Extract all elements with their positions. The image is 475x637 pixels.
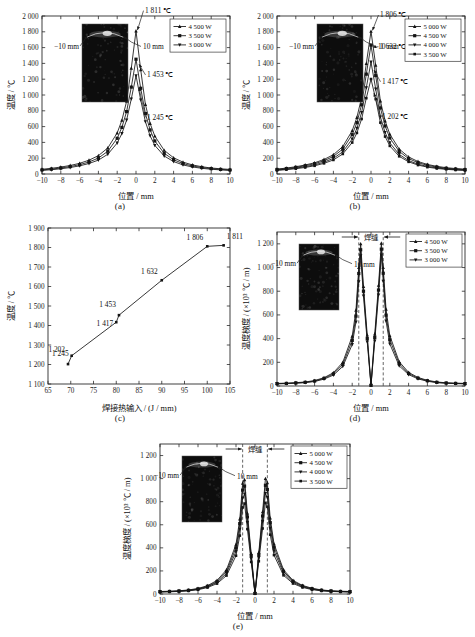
panel-caption: (a) [4, 201, 236, 211]
panel-d-chart: −10−8−6−4−2024681002004006008001 0001 20… [239, 218, 471, 428]
svg-text:1 632: 1 632 [141, 267, 158, 276]
svg-text:10 mm: 10 mm [237, 472, 258, 481]
svg-text:0: 0 [369, 177, 373, 185]
svg-text:1 200: 1 200 [257, 76, 274, 84]
svg-text:4 000 W: 4 000 W [310, 468, 334, 475]
panel-caption: (b) [239, 201, 471, 211]
panel-a-chart: −10−8−6−4−2024681002004006008001 0001 20… [4, 4, 236, 216]
svg-text:90: 90 [158, 387, 166, 395]
svg-text:1 245: 1 245 [52, 349, 69, 358]
svg-text:位置 / mm: 位置 / mm [237, 611, 273, 621]
svg-text:400: 400 [146, 544, 157, 552]
svg-text:1 200: 1 200 [140, 452, 157, 460]
panel-c-chart: 657075808590951001051 1001 2001 3001 400… [4, 218, 236, 428]
svg-text:1 400: 1 400 [22, 60, 39, 68]
svg-text:4 000 W: 4 000 W [424, 41, 448, 48]
svg-text:3 000 W: 3 000 W [189, 41, 213, 48]
svg-text:4: 4 [407, 389, 411, 397]
svg-text:−4: −4 [213, 597, 221, 605]
svg-text:8: 8 [444, 389, 448, 397]
svg-text:1 806: 1 806 [187, 233, 204, 242]
svg-text:0: 0 [270, 383, 274, 391]
svg-text:−2: −2 [232, 597, 240, 605]
svg-text:1 600: 1 600 [22, 44, 39, 52]
svg-text:−6: −6 [194, 597, 202, 605]
svg-text:200: 200 [146, 567, 157, 575]
svg-text:4: 4 [291, 597, 295, 605]
svg-text:−2: −2 [113, 177, 121, 185]
svg-text:1 300: 1 300 [28, 342, 45, 350]
svg-text:1 000: 1 000 [22, 92, 39, 100]
svg-text:800: 800 [146, 498, 157, 506]
svg-text:10: 10 [461, 389, 469, 397]
svg-text:65: 65 [44, 387, 52, 395]
svg-text:3 500 W: 3 500 W [425, 247, 449, 254]
svg-text:600: 600 [263, 123, 274, 131]
svg-text:2 000: 2 000 [257, 13, 274, 21]
svg-text:1 200: 1 200 [28, 361, 45, 369]
svg-text:80: 80 [113, 387, 121, 395]
svg-text:10 mm: 10 mm [354, 260, 375, 269]
svg-text:100: 100 [202, 387, 213, 395]
svg-text:800: 800 [263, 107, 274, 115]
svg-text:1 800: 1 800 [22, 28, 39, 36]
svg-text:温度梯度 / (×10³ ℃ / m): 温度梯度 / (×10³ ℃ / m) [122, 477, 132, 560]
svg-text:−8: −8 [175, 597, 183, 605]
svg-text:1 453: 1 453 [99, 300, 116, 309]
svg-text:−10 mm: −10 mm [154, 471, 179, 480]
svg-text:1 100: 1 100 [28, 381, 45, 389]
svg-text:600: 600 [263, 311, 274, 319]
svg-text:1 400: 1 400 [257, 60, 274, 68]
svg-text:位置 / mm: 位置 / mm [118, 191, 154, 201]
svg-text:2: 2 [153, 177, 157, 185]
svg-text:−4: −4 [330, 389, 338, 397]
svg-text:200: 200 [263, 155, 274, 163]
svg-text:0: 0 [134, 177, 138, 185]
svg-text:1 600: 1 600 [257, 44, 274, 52]
svg-text:5 000 W: 5 000 W [310, 450, 334, 457]
svg-text:600: 600 [28, 123, 39, 131]
svg-text:焊接热输入 / (J / mm): 焊接热输入 / (J / mm) [102, 403, 177, 413]
svg-text:3 500 W: 3 500 W [310, 478, 334, 485]
svg-text:4: 4 [172, 177, 176, 185]
svg-text:−6: −6 [311, 177, 319, 185]
svg-text:−6: −6 [76, 177, 84, 185]
svg-text:10: 10 [226, 177, 234, 185]
svg-text:4 500 W: 4 500 W [310, 459, 334, 466]
svg-text:400: 400 [263, 335, 274, 343]
svg-text:800: 800 [263, 288, 274, 296]
svg-text:1 800: 1 800 [257, 28, 274, 36]
svg-text:1 200: 1 200 [22, 76, 39, 84]
svg-text:6: 6 [191, 177, 195, 185]
svg-text:1 202 ℃: 1 202 ℃ [382, 112, 408, 121]
svg-text:4 500 W: 4 500 W [424, 32, 448, 39]
svg-text:−8: −8 [57, 177, 65, 185]
svg-text:3 500 W: 3 500 W [424, 51, 448, 58]
svg-text:1 806 ℃: 1 806 ℃ [380, 10, 406, 19]
svg-text:0: 0 [35, 171, 39, 179]
svg-text:−6: −6 [311, 389, 319, 397]
svg-text:6: 6 [426, 177, 430, 185]
svg-text:70: 70 [67, 387, 75, 395]
svg-text:5 000 W: 5 000 W [424, 23, 448, 30]
svg-text:200: 200 [28, 155, 39, 163]
panel-e-chart: −10−8−6−4−2024681002004006008001 0001 20… [120, 430, 356, 635]
svg-text:0: 0 [153, 591, 157, 599]
svg-text:温度 / ℃: 温度 / ℃ [241, 79, 251, 111]
svg-text:1 700: 1 700 [28, 264, 45, 272]
svg-text:2: 2 [388, 177, 392, 185]
svg-text:3 000 W: 3 000 W [425, 256, 449, 263]
svg-text:1 500: 1 500 [28, 303, 45, 311]
svg-text:3 500 W: 3 500 W [189, 32, 213, 39]
svg-text:95: 95 [181, 387, 189, 395]
svg-text:−2: −2 [348, 389, 356, 397]
svg-text:600: 600 [146, 521, 157, 529]
panel-caption: (c) [4, 413, 236, 423]
svg-text:位置 / mm: 位置 / mm [353, 191, 389, 201]
svg-text:−10 mm: −10 mm [271, 259, 296, 268]
svg-text:400: 400 [28, 139, 39, 147]
svg-text:0: 0 [270, 171, 274, 179]
svg-text:75: 75 [90, 387, 98, 395]
svg-text:温度 / ℃: 温度 / ℃ [6, 290, 16, 322]
svg-text:1 245 ℃: 1 245 ℃ [147, 113, 173, 122]
